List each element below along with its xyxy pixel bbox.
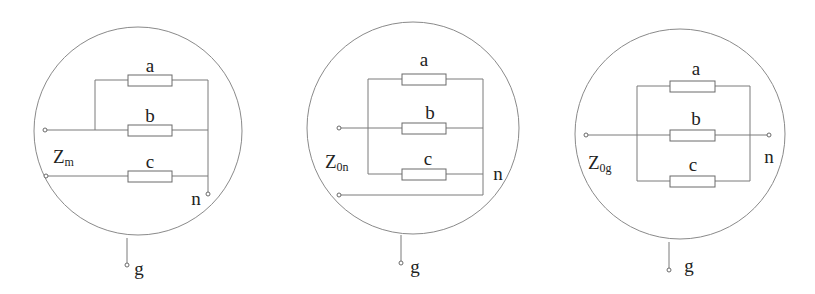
resistor-c bbox=[670, 176, 715, 187]
resistor-label-a: a bbox=[146, 55, 155, 76]
resistor-a bbox=[128, 75, 172, 86]
impedance-subscript: m bbox=[65, 155, 75, 169]
terminal-n bbox=[767, 133, 771, 137]
resistor-a bbox=[402, 74, 446, 85]
impedance-subscript: 0g bbox=[600, 161, 612, 175]
terminal-b bbox=[43, 128, 47, 132]
impedance-symbol: Z bbox=[325, 151, 337, 172]
impedance-symbol: Z bbox=[53, 146, 65, 167]
diagram-z0g: a b c Z0g n g bbox=[575, 29, 785, 276]
node-label-n: n bbox=[493, 163, 503, 184]
resistor-a bbox=[670, 81, 715, 92]
terminal-g bbox=[125, 263, 129, 267]
node-label-g: g bbox=[410, 256, 420, 277]
resistor-label-c: c bbox=[689, 154, 697, 175]
resistor-b bbox=[128, 125, 172, 136]
resistor-b bbox=[670, 130, 715, 141]
figure-canvas: a b c Zm n g a b c Z0n n g bbox=[0, 0, 815, 294]
resistor-label-a: a bbox=[692, 58, 701, 79]
resistor-label-c: c bbox=[146, 151, 154, 172]
diagram-zm: a b c Zm n g bbox=[34, 27, 242, 279]
resistor-c bbox=[128, 171, 172, 182]
impedance-label: Zm bbox=[53, 146, 75, 169]
resistor-label-b: b bbox=[145, 105, 155, 126]
resistor-c bbox=[402, 169, 446, 180]
terminal-n bbox=[206, 192, 210, 196]
terminal-g bbox=[667, 268, 671, 272]
terminal-b bbox=[337, 126, 341, 130]
terminal-c bbox=[44, 174, 48, 178]
diagram-z0n: a b c Z0n n g bbox=[307, 22, 519, 277]
resistor-label-a: a bbox=[420, 49, 429, 70]
circuit-figure: a b c Zm n g a b c Z0n n g bbox=[0, 0, 815, 294]
resistor-label-b: b bbox=[425, 102, 435, 123]
impedance-label: Z0g bbox=[588, 152, 612, 175]
node-label-n: n bbox=[191, 188, 201, 209]
terminal-b-left bbox=[584, 133, 588, 137]
impedance-subscript: 0n bbox=[337, 160, 349, 174]
impedance-label: Z0n bbox=[325, 151, 349, 174]
terminal-bottom bbox=[337, 193, 341, 197]
node-label-n: n bbox=[764, 146, 774, 167]
resistor-b bbox=[402, 123, 446, 134]
node-label-g: g bbox=[134, 258, 144, 279]
resistor-label-b: b bbox=[691, 108, 701, 129]
terminal-g bbox=[399, 261, 403, 265]
resistor-label-c: c bbox=[424, 148, 432, 169]
impedance-symbol: Z bbox=[588, 152, 600, 173]
node-label-g: g bbox=[684, 255, 694, 276]
